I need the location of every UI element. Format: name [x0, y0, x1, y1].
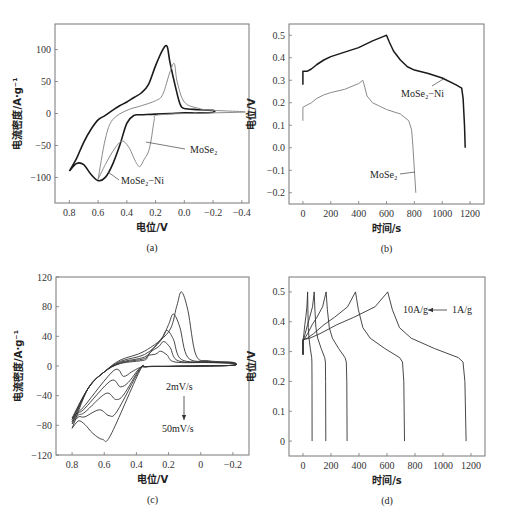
y-tick-label: 100: [36, 44, 51, 55]
x-tick-label: 400: [352, 460, 367, 471]
x-tick-label: 1000: [433, 460, 453, 471]
y-tick-label: −100: [30, 172, 51, 183]
annotation-leader-line: [146, 142, 185, 149]
x-tick-label: 0.6: [92, 207, 105, 218]
x-tick-label: 0.8: [66, 459, 79, 470]
data-series-line: [303, 80, 416, 193]
annotation-label: 2mV/s: [166, 381, 193, 392]
chart-panel-c: 0.80.60.40.20−0.212080400−40−80−120电位/V电…: [12, 272, 249, 507]
x-tick-label: 0.4: [130, 459, 143, 470]
annotation-leader-line: [432, 78, 445, 86]
x-tick-label: 0.8: [63, 207, 76, 218]
chart-panel-a: 0.80.60.40.20.0−0.2−0.4100500−50−100电位/V…: [11, 24, 251, 254]
annotation-label: 1A/g: [452, 304, 472, 315]
y-tick-label: 0.3: [273, 75, 286, 86]
x-tick-label: 200: [323, 208, 338, 219]
x-axis-title: 电位/V: [137, 473, 169, 485]
x-tick-label: 800: [408, 460, 423, 471]
panel-label: (a): [146, 242, 157, 254]
y-tick-label: 0.2: [273, 97, 286, 108]
y-tick-label: 40: [42, 331, 52, 342]
annotation-label: 10A/g: [403, 304, 428, 315]
y-axis-title: 电位/V: [245, 98, 257, 130]
x-tick-label: 200: [324, 460, 339, 471]
cv-curve-50mV/s: [72, 292, 236, 442]
x-tick-label: 0.0: [178, 207, 191, 218]
annotation-label: MoSe₂: [190, 144, 217, 155]
y-tick-label: 0.5: [273, 286, 286, 297]
y-tick-label: 0: [280, 436, 285, 447]
y-tick-label: 80: [42, 301, 52, 312]
y-axis-title: 电流密度/A·g⁻¹: [11, 77, 23, 149]
chart-panel-d: 0200400600800100012000.50.40.30.20.10时间/…: [245, 277, 485, 507]
y-tick-label: 0: [46, 108, 51, 119]
x-tick-label: 0.2: [149, 207, 162, 218]
y-tick-label: −120: [31, 450, 52, 461]
y-tick-label: 120: [37, 272, 52, 283]
panel-label: (d): [381, 495, 393, 507]
annotation-label: MoSe₂−Ni: [401, 88, 444, 99]
y-tick-label: 0.5: [273, 30, 286, 41]
x-axis-title: 电位/V: [136, 221, 168, 233]
y-tick-label: 0.4: [273, 316, 286, 327]
x-tick-label: 400: [351, 208, 366, 219]
cv-curve-10mV/s: [72, 330, 236, 421]
cv-curve-5mV/s: [72, 341, 236, 419]
y-axis-title: 电流密度/A·g⁻¹: [12, 330, 24, 402]
chart-panel-b: 0200400600800100012000.50.40.30.20.10.0−…: [245, 24, 484, 255]
annotation-label: MoSe₂−Ni: [121, 175, 164, 186]
y-tick-label: 0.1: [273, 406, 286, 417]
x-tick-label: −0.2: [204, 207, 222, 218]
y-tick-label: 0: [47, 361, 52, 372]
annotation-leader-line: [400, 172, 415, 174]
x-tick-label: 600: [379, 208, 394, 219]
annotation-label: MoSe₂: [370, 169, 397, 180]
x-tick-label: 0: [198, 459, 203, 470]
panel-label: (c): [147, 494, 158, 506]
y-tick-label: −50: [35, 140, 51, 151]
y-tick-label: −80: [36, 420, 52, 431]
y-axis-title: 电位/V: [245, 351, 257, 383]
arrow-head-icon: [182, 415, 186, 420]
x-tick-label: 0.4: [121, 207, 134, 218]
y-tick-label: 0.4: [273, 52, 286, 63]
x-axis-title: 时间/s: [372, 222, 402, 234]
figure-canvas: 0.80.60.40.20.0−0.2−0.4100500−50−100电位/V…: [0, 0, 506, 521]
x-tick-label: 1000: [432, 208, 452, 219]
panel-label: (b): [381, 243, 393, 255]
annotation-leader-line: [108, 172, 119, 180]
x-tick-label: 0: [301, 460, 306, 471]
x-tick-label: −0.2: [224, 459, 242, 470]
y-tick-label: 50: [41, 76, 51, 87]
cv-curve-20mV/s: [72, 314, 236, 424]
y-tick-label: −0.2: [267, 187, 285, 198]
x-tick-label: 800: [407, 208, 422, 219]
arrow-head-icon: [428, 308, 433, 312]
annotation-label: 50mV/s: [162, 423, 194, 434]
y-tick-label: 0.3: [273, 346, 286, 357]
y-tick-label: 0.1: [273, 120, 286, 131]
x-tick-label: −0.4: [233, 207, 251, 218]
x-tick-label: 0.2: [162, 459, 175, 470]
data-series-line: [98, 63, 245, 179]
x-tick-label: 1200: [461, 460, 481, 471]
y-tick-label: −40: [36, 390, 52, 401]
x-tick-label: 0: [300, 208, 305, 219]
x-tick-label: 600: [380, 460, 395, 471]
y-tick-label: 0.0: [273, 142, 286, 153]
x-tick-label: 1200: [460, 208, 480, 219]
x-tick-label: 0.6: [98, 459, 111, 470]
x-axis-title: 时间/s: [372, 474, 402, 486]
y-tick-label: −0.1: [267, 165, 285, 176]
y-tick-label: 0.2: [273, 376, 286, 387]
